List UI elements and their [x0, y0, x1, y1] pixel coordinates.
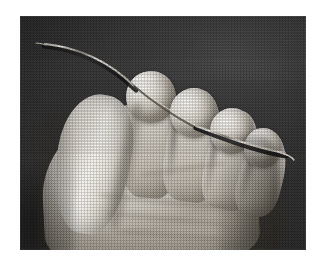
needle-mid-highlight	[135, 85, 197, 126]
needle-left-shadow	[44, 46, 136, 90]
needle	[20, 16, 306, 250]
needle-shape	[20, 16, 306, 250]
photograph-plate	[20, 16, 306, 250]
needle-right-highlight	[196, 126, 285, 153]
page-root	[0, 0, 319, 261]
